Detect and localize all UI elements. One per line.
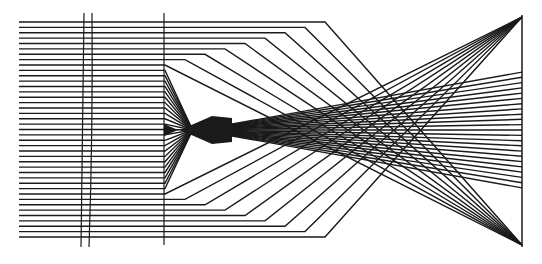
light-rays <box>19 17 522 245</box>
ray <box>19 17 522 216</box>
ray <box>19 130 522 131</box>
ray-diagram <box>0 0 542 264</box>
ray <box>19 44 522 246</box>
